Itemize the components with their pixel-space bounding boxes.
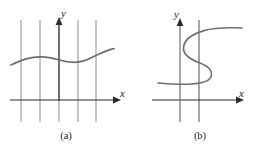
function-curve-b <box>158 28 242 85</box>
panel-a: y x (a) <box>0 0 136 153</box>
y-axis-label-b: y <box>174 9 179 20</box>
x-axis-label-a: x <box>120 88 125 99</box>
panel-caption-b: (b) <box>180 131 220 142</box>
function-curve-a <box>11 49 114 65</box>
vertical-line-test-figure: y x (a) y x (b) <box>0 0 272 153</box>
y-axis-b <box>177 18 184 122</box>
x-axis-a <box>10 97 121 104</box>
panel-b: y x (b) <box>136 0 272 153</box>
panel-caption-a: (a) <box>46 131 86 142</box>
y-axis-label-a: y <box>61 8 66 19</box>
x-axis-b <box>152 97 244 104</box>
x-axis-label-b: x <box>239 88 244 99</box>
